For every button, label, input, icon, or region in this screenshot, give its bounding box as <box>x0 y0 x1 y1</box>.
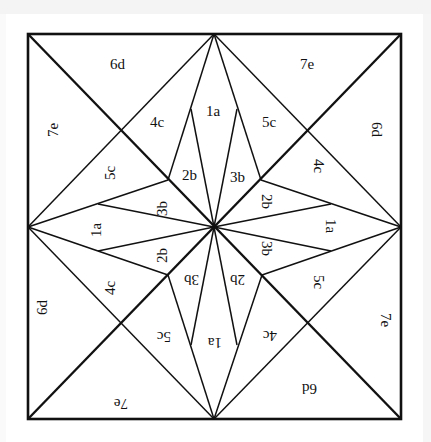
label-1a-west: 1a <box>88 223 104 238</box>
label-4c-north: 4c <box>150 114 165 130</box>
label-7e-right: 7e <box>378 313 394 328</box>
label-5c-south: 5c <box>157 329 172 345</box>
label-1a-north: 1a <box>206 103 221 119</box>
label-3b-north: 3b <box>230 169 245 185</box>
label-5c-west: 5c <box>102 166 118 181</box>
label-7e-bottom: 7e <box>114 396 129 412</box>
label-6d-bottom: 6d <box>302 381 318 397</box>
label-2b-west: 2b <box>154 248 170 263</box>
label-3b-east: 3b <box>259 241 275 256</box>
label-4c-west: 4c <box>102 281 118 296</box>
label-6d-top: 6d <box>110 56 126 72</box>
label-7e-top: 7e <box>300 56 315 72</box>
quilt-diagram: 6d 7e 7e 6d 6d 7e 7e 6d 4c 1a 5c 2b 3b 5… <box>0 0 431 442</box>
label-3b-south: 3b <box>184 272 199 288</box>
label-4c-east: 4c <box>311 159 327 174</box>
label-4c-south: 4c <box>263 328 278 344</box>
label-7e-left: 7e <box>45 123 61 138</box>
label-1a-east: 1a <box>323 219 339 234</box>
label-5c-east: 5c <box>311 275 327 290</box>
label-2b-south: 2b <box>230 272 245 288</box>
label-2b-north: 2b <box>182 167 197 183</box>
label-6d-right: 6d <box>369 122 385 138</box>
label-5c-north: 5c <box>262 114 277 130</box>
label-6d-left: 6d <box>34 300 50 316</box>
label-3b-west: 3b <box>154 201 170 216</box>
label-1a-south: 1a <box>208 335 223 351</box>
label-2b-east: 2b <box>259 194 275 209</box>
